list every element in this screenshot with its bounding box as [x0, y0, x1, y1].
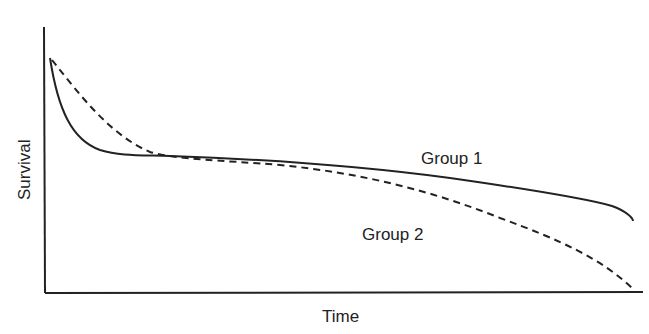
survival-chart: Group 1 Group 2 Time Survival: [0, 0, 649, 334]
group-1-curve: [50, 58, 633, 221]
x-axis: [45, 292, 643, 293]
x-axis-label: Time: [322, 307, 359, 326]
group-1-label: Group 1: [421, 149, 482, 168]
group-2-label: Group 2: [362, 225, 423, 244]
y-axis: [44, 27, 45, 293]
group-2-curve: [52, 60, 632, 288]
y-axis-label: Survival: [15, 140, 34, 200]
